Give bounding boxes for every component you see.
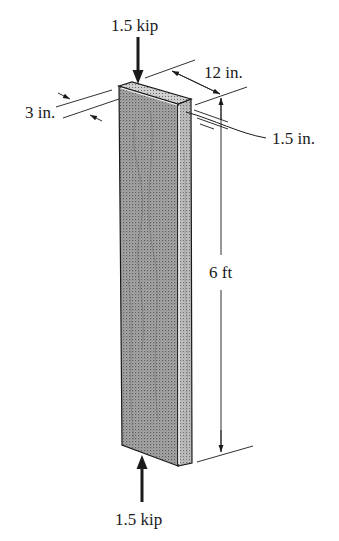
top-load-label: 1.5 kip [111,17,158,34]
thickness-label: 1.5 in. [272,130,315,147]
thickness-dimension [186,110,266,138]
bottom-load-arrow [137,455,148,502]
depth-dimension [56,90,119,121]
board-compression-diagram: 1.5 kip 12 in. 3 in. 1.5 in. 6 ft 1.5 ki… [0,0,339,541]
diagram-canvas [0,0,339,541]
wooden-board [119,82,192,466]
board-front-face [119,86,178,466]
depth-label: 3 in. [25,104,55,121]
width-label: 12 in. [204,64,243,81]
height-label: 6 ft [209,264,232,281]
top-load-arrow [133,37,144,84]
bottom-load-label: 1.5 kip [115,511,162,528]
